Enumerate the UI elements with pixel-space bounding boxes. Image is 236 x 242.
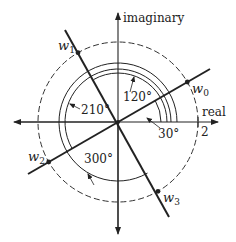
w0-point [185,80,190,85]
angle-label-300: 300° [84,152,113,166]
real-axis-label: real [202,105,226,119]
w1-label: w1 [58,38,75,55]
w0-label: w0 [192,81,209,98]
w3-point [156,189,161,194]
origin-dot [116,120,120,124]
arc-30 [155,101,161,123]
arrow-210 [70,104,80,109]
w1-point [76,50,81,55]
angle-label-210: 210° [81,103,110,117]
w2-label: w2 [28,149,45,166]
angle-label-120: 120° [123,90,152,104]
w3-label: w3 [163,190,180,207]
tick-label-2: 2 [201,125,209,139]
w2-point [46,160,51,165]
angle-label-30: 30° [158,127,179,141]
imaginary-axis-label: imaginary [123,11,185,25]
complex-plane-diagram: imaginary real 2 30° 120° 210° 300° w0 w… [0,0,236,242]
